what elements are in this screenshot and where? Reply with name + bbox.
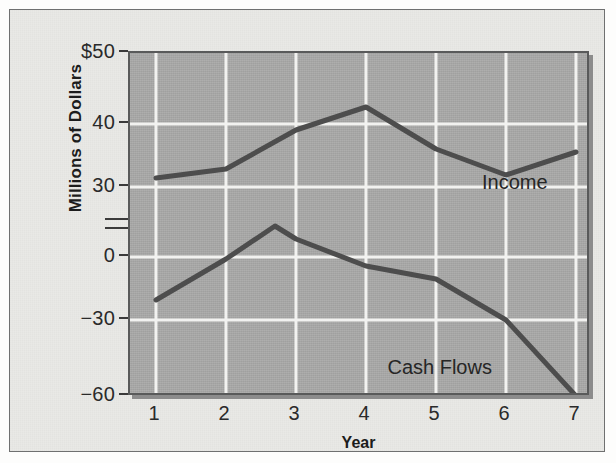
y-tick-label: 40: [92, 111, 115, 134]
series-label-cash-flows: Cash Flows from Operations: [368, 311, 511, 395]
y-tick-mark: [119, 184, 128, 186]
series-label-cash-flows-line1: Cash Flows: [368, 356, 511, 378]
y-tick-mark: [119, 317, 128, 319]
x-axis-tick-1: 1: [134, 402, 174, 425]
y-tick-mark: [119, 50, 128, 52]
y-tick-mark: [119, 254, 128, 256]
y-tick-label: −60: [80, 383, 115, 406]
chart-frame: Millions of Dollars $50 40 30 0 −30 −60: [9, 9, 605, 452]
x-axis-tick-7: 7: [554, 402, 594, 425]
plot-svg: [130, 53, 589, 395]
y-tick-label: 0: [104, 244, 115, 267]
x-axis-tick-6: 6: [484, 402, 524, 425]
x-axis-tick-3: 3: [274, 402, 314, 425]
x-axis-tick-2: 2: [204, 402, 244, 425]
y-tick-label: −30: [80, 307, 115, 330]
x-axis-tick-5: 5: [414, 402, 454, 425]
horizontal-gridlines: [130, 124, 589, 320]
series-label-income: Income: [482, 171, 548, 193]
plot-area: Income Cash Flows from Operations: [128, 51, 589, 395]
y-tick-mark: [119, 121, 128, 123]
vertical-gridlines: [156, 53, 576, 395]
y-tick-label: $50: [81, 40, 115, 63]
y-tick-mark: [119, 393, 128, 395]
chart-figure: Millions of Dollars $50 40 30 0 −30 −60: [0, 0, 616, 463]
y-tick-label: 30: [92, 174, 115, 197]
x-axis-tick-4: 4: [344, 402, 384, 425]
x-axis-title: Year: [128, 434, 589, 452]
